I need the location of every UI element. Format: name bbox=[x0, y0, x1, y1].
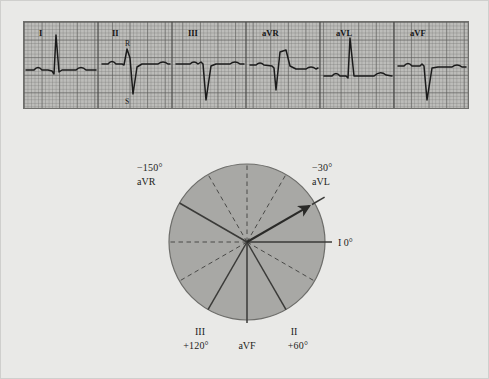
lead-label-avf: aVF bbox=[410, 28, 426, 38]
label-lead-iii: III bbox=[195, 326, 205, 337]
lead-label-ii: II bbox=[112, 28, 119, 38]
lead-label-avl: aVL bbox=[336, 28, 352, 38]
ecg-trace-lead-iii bbox=[176, 62, 244, 100]
ecg-trace-lead-ii bbox=[102, 49, 170, 94]
wave-label-s: S bbox=[125, 97, 129, 106]
label-lead-i: I 0° bbox=[338, 237, 353, 248]
hexaxial-svg: −150° aVR −30° aVL I 0° III +120° aVF II… bbox=[136, 127, 358, 359]
label-lead-ii-degrees: +60° bbox=[288, 340, 308, 351]
lead-label-avr: aVR bbox=[262, 28, 279, 38]
label-avr-degrees: −150° bbox=[137, 162, 163, 173]
label-avl-lead: aVL bbox=[312, 176, 330, 187]
label-lead-avf: aVF bbox=[238, 340, 256, 351]
hexaxial-reference-diagram: −150° aVR −30° aVL I 0° III +120° aVF II… bbox=[136, 127, 358, 359]
ecg-trace-lead-avr bbox=[250, 50, 318, 90]
lead-label-iii: III bbox=[188, 28, 199, 38]
ecg-trace-lead-avl bbox=[324, 38, 392, 78]
ecg-trace-lead-avf bbox=[398, 64, 466, 101]
label-lead-iii-degrees: +120° bbox=[183, 340, 209, 351]
label-lead-ii: II bbox=[291, 326, 298, 337]
wave-label-r: R bbox=[125, 39, 130, 48]
ecg-trace-lead-i bbox=[26, 35, 96, 74]
lead-label-i: I bbox=[39, 28, 43, 38]
label-avr-lead: aVR bbox=[137, 176, 156, 187]
ecg-traces: I II R S III aVR aVL aVF bbox=[24, 22, 468, 108]
figure-page: I II R S III aVR aVL aVF bbox=[0, 0, 489, 379]
limb-lead-ecg-strip: I II R S III aVR aVL aVF bbox=[23, 21, 469, 109]
label-avl-degrees: −30° bbox=[312, 162, 332, 173]
